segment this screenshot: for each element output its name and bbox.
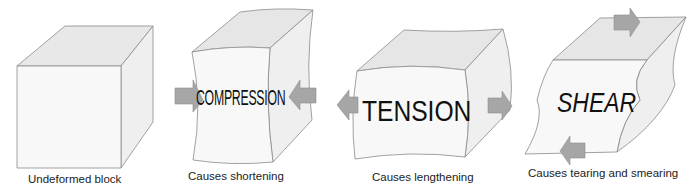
shear-label: SHEAR bbox=[557, 89, 636, 117]
tension-caption: Causes lengthening bbox=[372, 171, 474, 183]
compression-label: COMPRESSION bbox=[196, 87, 285, 109]
tension-label: TENSION bbox=[362, 96, 471, 126]
undeformed-caption: Undeformed block bbox=[28, 173, 121, 185]
undeformed-block bbox=[17, 26, 153, 168]
compression-caption: Causes shortening bbox=[188, 170, 284, 182]
undeformed-front-face bbox=[17, 66, 121, 168]
shear-caption: Causes tearing and smearing bbox=[528, 167, 678, 179]
